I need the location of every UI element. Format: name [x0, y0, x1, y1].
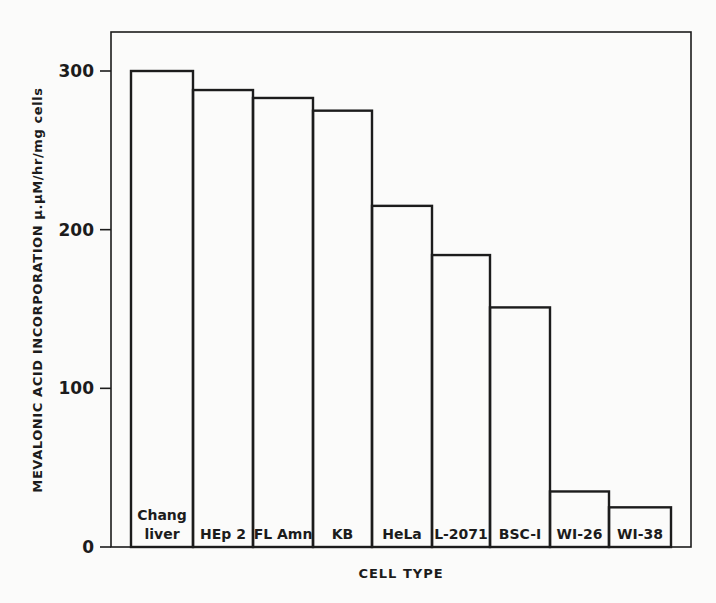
bar	[253, 98, 313, 547]
bar-label: WI-38	[617, 526, 663, 542]
y-tick-label: 0	[82, 537, 94, 557]
bar	[313, 111, 372, 547]
bars	[131, 71, 671, 547]
bar-label: L-2071	[434, 526, 488, 542]
bar	[131, 71, 193, 547]
bar-label: FL Amn	[254, 526, 313, 542]
bar	[372, 206, 432, 547]
bar-label: BSC-I	[499, 526, 541, 542]
bar-label: WI-26	[557, 526, 603, 542]
bar-label: HeLa	[382, 526, 422, 542]
y-axis-title: MEVALONIC ACID INCORPORATION μ.μM/hr/mg …	[30, 87, 45, 492]
y-tick-label: 200	[59, 220, 95, 240]
bar-label: liver	[144, 526, 179, 542]
bar-label: KB	[332, 526, 354, 542]
bar-chart: 0100200300 ChangliverHEp 2FL AmnKBHeLaL-…	[0, 0, 716, 603]
bar	[490, 307, 550, 547]
x-axis-title: CELL TYPE	[358, 566, 443, 581]
plot-frame	[111, 32, 691, 547]
bar-labels: ChangliverHEp 2FL AmnKBHeLaL-2071BSC-IWI…	[137, 507, 663, 542]
y-axis: 0100200300	[59, 61, 112, 557]
y-tick-label: 300	[59, 61, 95, 81]
bar	[193, 90, 253, 547]
bar	[432, 255, 490, 547]
y-tick-label: 100	[59, 378, 95, 398]
bar-label: HEp 2	[200, 526, 246, 542]
bar-label: Chang	[137, 507, 187, 523]
